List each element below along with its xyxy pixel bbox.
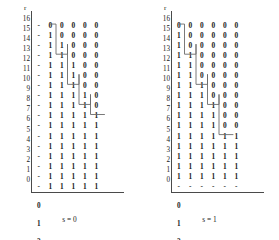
grid-row: 14100000 [173,34,242,44]
y-tick: 7 [154,104,170,114]
grid-row: 15-10000 [33,24,102,34]
grid-row: 5-11111 [33,125,102,135]
y-tick: 9 [154,84,170,94]
grid-row: 6111100 [173,114,242,124]
grid-row: 9-11110 [33,84,102,94]
grid-cell: 1 [45,182,57,192]
y-tick: 10 [154,74,170,84]
y-axis-line [171,11,172,192]
grid-row: 2111111 [173,155,242,165]
grid-cell: 1 [79,182,91,192]
x-tick: 0 [33,202,45,211]
y-tick: 7 [14,104,30,114]
panel-s1: r 16000000151000001410000013110000121100… [140,0,279,240]
y-tick: 0 [14,175,30,185]
y-tick: 1 [14,165,30,175]
grid-cell: - [173,182,185,192]
y-axis-label: r [24,4,26,12]
y-tick: 8 [14,94,30,104]
grid-cell: - [219,182,231,192]
grid-cell: - [231,182,243,192]
grid-cell: - [208,182,220,192]
grid-row: 10-11100 [33,74,102,84]
y-tick: 2 [154,155,170,165]
grid-cell: - [196,182,208,192]
value-grid-s0: 16-0000015-1000014-1100013-1100012-11100… [33,14,102,185]
y-axis-label: r [164,4,166,12]
grid-row: 8111100 [173,94,242,104]
y-tick: 11 [154,64,170,74]
grid-row: 16-00000 [33,14,102,24]
y-tick: 12 [14,54,30,64]
grid-row: 4111111 [173,135,242,145]
grid-cell: - [185,182,197,192]
grid-row: 9111000 [173,84,242,94]
grid-row: 15100000 [173,24,242,34]
grid-cell: 1 [56,182,68,192]
grid-row: 10111000 [173,74,242,84]
y-tick: 16 [14,14,30,24]
y-axis-line [31,11,32,192]
panel-caption-s1: s = 1 [140,215,279,224]
grid-row: 11-11100 [33,64,102,74]
grid-row: 3-11111 [33,145,102,155]
y-tick: 4 [154,135,170,145]
y-tick: 15 [14,24,30,34]
grid-row: 0-11111 [33,175,102,185]
y-tick: 0 [154,175,170,185]
y-tick: 1 [154,165,170,175]
grid-row: 6-11111 [33,114,102,124]
y-tick: 9 [14,84,30,94]
y-tick: 5 [154,125,170,135]
grid-row: 12110000 [173,54,242,64]
grid-cell: 1 [91,182,103,192]
y-tick: 6 [14,114,30,124]
panel-caption-s0: s = 0 [0,215,139,224]
grid-row: 2-11111 [33,155,102,165]
y-tick: 16 [154,14,170,24]
grid-row: 4-11111 [33,135,102,145]
grid-cell: - [33,182,45,192]
panel-s0: r 16-0000015-1000014-1100013-1100012-111… [0,0,139,240]
y-tick: 14 [14,34,30,44]
grid-row: 13-11000 [33,44,102,54]
x-axis-line [171,192,264,193]
grid-row: 8-11110 [33,94,102,104]
grid-row: 13110000 [173,44,242,54]
grid-cell: 1 [68,182,80,192]
y-tick: 6 [154,114,170,124]
y-tick: 3 [14,145,30,155]
grid-row: 3111111 [173,145,242,155]
grid-row: 1111111 [173,165,242,175]
grid-row: 7111100 [173,104,242,114]
grid-row: 7-11111 [33,104,102,114]
figure-canvas: r 16-0000015-1000014-1100013-1100012-111… [0,0,279,240]
grid-row: 14-11000 [33,34,102,44]
grid-row: 0------ [173,175,242,185]
y-tick: 10 [14,74,30,84]
x-tick: 0 [173,202,185,211]
y-tick: 2 [14,155,30,165]
grid-row: 16000000 [173,14,242,24]
y-tick: 4 [14,135,30,145]
grid-row: 12-11100 [33,54,102,64]
grid-row: 11110000 [173,64,242,74]
y-tick: 3 [154,145,170,155]
y-tick: 13 [14,44,30,54]
x-axis-line [31,192,124,193]
y-tick: 8 [154,94,170,104]
value-grid-s1: 1600000015100000141000001311000012110000… [173,14,242,185]
y-tick: 5 [14,125,30,135]
grid-row: 1-11111 [33,165,102,175]
grid-row: 5111111 [173,125,242,135]
y-tick: 13 [154,44,170,54]
y-tick: 12 [154,54,170,64]
y-tick: 14 [154,34,170,44]
y-tick: 11 [14,64,30,74]
y-tick: 15 [154,24,170,34]
